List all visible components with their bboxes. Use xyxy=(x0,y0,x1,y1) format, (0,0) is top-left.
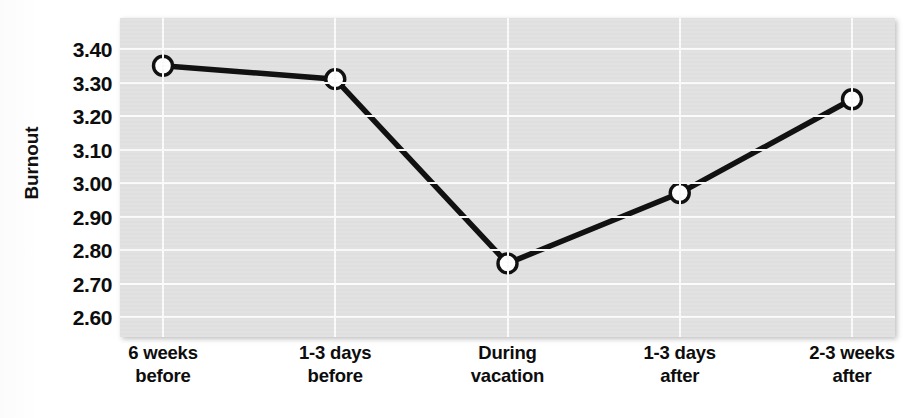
vertical-gridline xyxy=(162,18,164,337)
x-tick-label: 6 weeksbefore xyxy=(78,342,248,387)
y-tick-label: 2.70 xyxy=(28,273,112,294)
x-tick-label: Duringvacation xyxy=(423,342,593,387)
y-tick-label: 3.10 xyxy=(28,139,112,160)
x-tick-label: 1-3 daysafter xyxy=(595,342,765,387)
x-tick-label-line: 1-3 days xyxy=(250,342,420,365)
x-tick-label-line: before xyxy=(78,365,248,388)
x-tick-label-line: before xyxy=(250,365,420,388)
y-tick-label: 3.20 xyxy=(28,106,112,127)
vertical-gridline xyxy=(334,18,336,337)
y-tick-label: 3.40 xyxy=(28,39,112,60)
x-tick-label-line: During xyxy=(423,342,593,365)
x-tick-label-line: after xyxy=(767,365,919,388)
y-tick-label: 2.90 xyxy=(28,206,112,227)
y-tick-label: 2.60 xyxy=(28,307,112,328)
x-tick-label-line: 2-3 weeks xyxy=(767,342,919,365)
x-axis-tick-labels: 6 weeksbefore1-3 daysbeforeDuringvacatio… xyxy=(120,342,895,402)
y-tick-label: 3.00 xyxy=(28,173,112,194)
x-tick-label-line: after xyxy=(595,365,765,388)
burnout-vacation-line-chart: Burnout 3.403.303.203.103.002.902.802.70… xyxy=(0,0,919,418)
vertical-gridline xyxy=(507,18,509,337)
x-tick-label: 2-3 weeksafter xyxy=(767,342,919,387)
vertical-gridline xyxy=(679,18,681,337)
y-tick-label: 2.80 xyxy=(28,240,112,261)
x-tick-label: 1-3 daysbefore xyxy=(250,342,420,387)
y-axis-tick-labels: 3.403.303.203.103.002.902.802.702.60 xyxy=(28,18,112,338)
vertical-gridline xyxy=(851,18,853,337)
x-tick-label-line: 1-3 days xyxy=(595,342,765,365)
y-tick-label: 3.30 xyxy=(28,72,112,93)
plot-area xyxy=(120,18,895,337)
x-tick-label-line: 6 weeks xyxy=(78,342,248,365)
x-tick-label-line: vacation xyxy=(423,365,593,388)
